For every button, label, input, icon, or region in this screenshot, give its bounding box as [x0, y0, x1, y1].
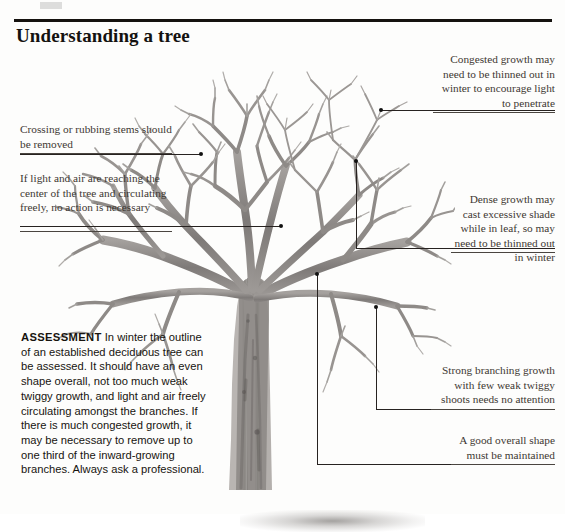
assessment-heading: ASSESSMENT [21, 331, 102, 343]
annotation-strong-branching-text: Strong branching growth with few weak tw… [441, 364, 555, 405]
annotation-congested-growth: Congested growth may need to be thinned … [433, 52, 555, 110]
assessment-body: In winter the outline of an established … [21, 331, 206, 475]
annotation-crossing-stems-text: Crossing or rubbing stems should be remo… [20, 123, 172, 150]
annotation-light-and-air: If light and air are reaching the center… [20, 171, 172, 215]
annotation-dense-growth: Dense growth may cast excessive shade wh… [451, 192, 555, 265]
annotation-good-shape-rule [451, 464, 555, 465]
assessment-block: ASSESSMENT In winter the outline of an e… [21, 330, 208, 477]
annotation-crossing-stems: Crossing or rubbing stems should be remo… [20, 122, 172, 151]
annotation-dense-growth-rule [451, 252, 555, 253]
header-rule [14, 19, 552, 22]
annotation-crossing-stems-rule [20, 153, 172, 154]
annotation-good-shape: A good overall shape must be maintained [451, 433, 555, 462]
annotation-strong-branching-rule [431, 409, 555, 410]
annotation-light-and-air-text: If light and air are reaching the center… [20, 172, 166, 213]
tree-ground-shadow [240, 510, 425, 532]
page-corner-mark [40, 2, 62, 9]
annotation-strong-branching: Strong branching growth with few weak tw… [431, 363, 555, 407]
annotation-congested-growth-text: Congested growth may need to be thinned … [442, 53, 555, 109]
annotation-good-shape-text: A good overall shape must be maintained [459, 434, 555, 461]
annotation-congested-growth-rule [433, 112, 555, 113]
annotation-light-and-air-rule [20, 231, 172, 232]
